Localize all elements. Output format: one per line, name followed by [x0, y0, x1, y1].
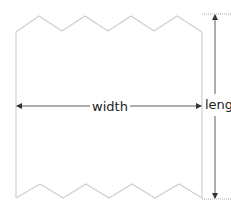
bottom-torn-edge — [16, 184, 202, 198]
length-dimension: length — [202, 14, 231, 199]
length-label: length — [205, 97, 231, 112]
width-dimension: width — [17, 99, 201, 114]
top-torn-edge — [16, 16, 202, 32]
width-label: width — [92, 99, 128, 114]
diagram-canvas: width length — [0, 0, 231, 213]
